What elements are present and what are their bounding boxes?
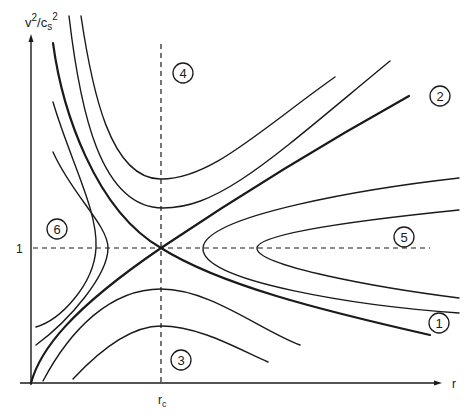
- x-axis-label: r: [452, 377, 456, 391]
- y-tick-1: 1: [16, 242, 23, 256]
- curve-region-3-outer: [43, 289, 300, 381]
- region-marker-4: 4: [173, 63, 193, 83]
- x-tick-rc: rc: [158, 393, 167, 409]
- curve-region-4-inner: [69, 16, 390, 208]
- svg-text:5: 5: [400, 230, 407, 245]
- region-marker-1: 1: [429, 313, 449, 333]
- critical-curve-1: [53, 43, 430, 335]
- svg-text:4: 4: [179, 66, 186, 81]
- region-marker-3: 3: [171, 350, 191, 370]
- svg-text:2: 2: [436, 89, 443, 104]
- region-marker-6: 6: [47, 219, 67, 239]
- svg-text:6: 6: [53, 222, 60, 237]
- svg-text:1: 1: [435, 316, 442, 331]
- svg-text:3: 3: [177, 353, 184, 368]
- curve-region-4-outer: [81, 16, 335, 179]
- region-marker-2: 2: [430, 86, 450, 106]
- y-axis-label: v2/cs2: [25, 11, 58, 32]
- region-marker-5: 5: [394, 227, 414, 247]
- curve-region-5-inner: [257, 210, 459, 298]
- x-axis-arrow-icon: [434, 381, 442, 386]
- axes: [20, 34, 442, 386]
- solution-topology-diagram: v2/cs2 r rc 1 1 2 3 4 5 6: [0, 0, 473, 419]
- y-axis-arrow-icon: [29, 34, 34, 42]
- curve-region-3-inner: [73, 326, 268, 379]
